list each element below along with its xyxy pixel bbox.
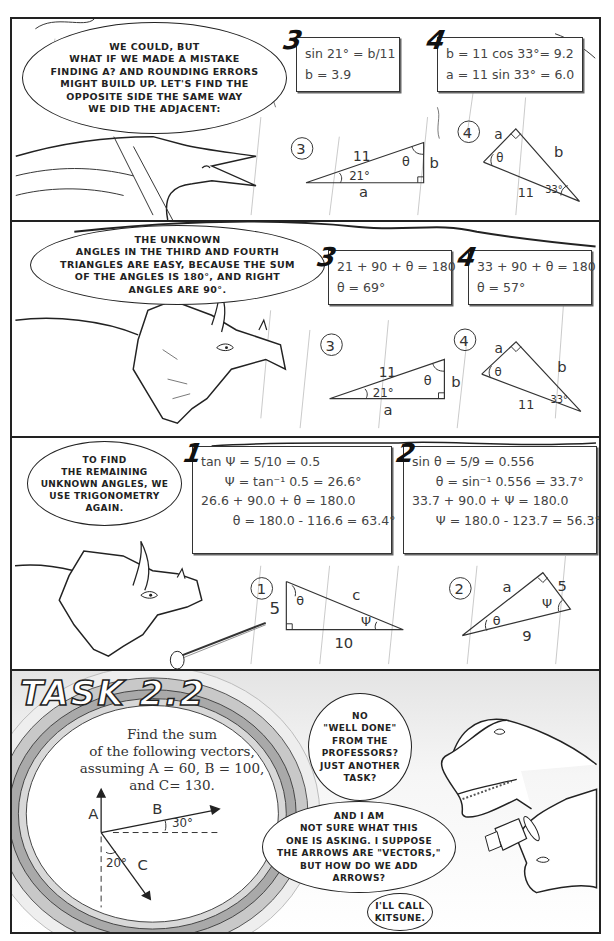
calc-line: θ = 69°: [337, 280, 385, 295]
side-a: a: [494, 340, 502, 356]
speech-bubble-trex: No "well done" from the professors? Just…: [308, 693, 412, 801]
vector-c-label: C: [138, 856, 148, 873]
calc-line: θ = 180.0 - 116.6 = 63.4°: [201, 513, 395, 528]
side-hyp: 11: [518, 397, 534, 412]
vector-b-label: B: [152, 800, 162, 817]
angle-33: 33°: [545, 184, 562, 195]
side-c: c: [352, 586, 360, 603]
calc-line: tan Ψ = 5/10 = 0.5: [201, 454, 320, 469]
calc-line: 21 + 90 + θ = 180: [337, 259, 456, 274]
angle-30-label: 30°: [172, 816, 193, 830]
task-title: TASK 2.2: [20, 673, 206, 713]
panel-3: 1 5 θ c Ψ 10 2 a 5 Ψ θ 9 To find the rem…: [10, 436, 601, 671]
angle-theta: θ: [494, 365, 501, 379]
triangle-3-label: 3: [326, 337, 335, 354]
side-10: 10: [334, 634, 353, 651]
side-5: 5: [558, 577, 567, 594]
side-hyp: 11: [379, 364, 396, 380]
calc-line: b = 11 cos 33°= 9.2: [446, 46, 574, 61]
side-9: 9: [522, 627, 531, 644]
side-b: b: [430, 154, 439, 171]
angle-33: 33°: [550, 394, 567, 405]
panel-4: A B 30° C 20° TASK 2.2 Find the sum of t…: [10, 669, 601, 934]
calc-line: Ψ = 180.0 - 123.7 = 56.3°: [412, 513, 601, 528]
side-hyp: 11: [353, 148, 370, 164]
panel-2: 3 11 21° θ b a 4 a θ b 33° 11 The unknow…: [10, 220, 601, 438]
triangle-1-label: 1: [257, 580, 266, 597]
calc-line: sin 21° = b/11: [305, 46, 396, 61]
angle-theta: θ: [402, 154, 410, 169]
calc-line: a = 11 sin 33° = 6.0: [446, 67, 574, 82]
angle-psi: Ψ: [361, 614, 371, 629]
triangle-4-label: 4: [459, 332, 468, 349]
calc-box-2: sin θ = 5/9 = 0.556 θ = sin⁻¹ 0.556 = 33…: [403, 446, 597, 554]
triangle-3-label: 3: [296, 140, 305, 157]
angle-20-label: 20°: [106, 856, 127, 870]
side-b: b: [554, 143, 563, 160]
calc-box-4: b = 11 cos 33°= 9.2 a = 11 sin 33° = 6.0: [437, 37, 583, 92]
calc-line: 26.6 + 90.0 + θ = 180.0: [201, 493, 355, 508]
side-a: a: [503, 578, 512, 595]
side-a: a: [384, 401, 393, 418]
angle-theta: θ: [296, 593, 304, 608]
speech-bubble: The unknown angles in the third and four…: [30, 225, 325, 305]
calc-line: b = 3.9: [305, 67, 351, 82]
angle-theta: θ: [496, 151, 503, 165]
calc-box-4: 33 + 90 + θ = 180 θ = 57°: [468, 250, 592, 305]
calc-line: 33.7 + 90.0 + Ψ = 180.0: [412, 493, 569, 508]
calc-box-3: sin 21° = b/11 b = 3.9: [296, 37, 400, 92]
calc-box-3: 21 + 90 + θ = 180 θ = 69°: [328, 250, 452, 305]
speech-bubble: To find the remaining unknown angles, we…: [27, 441, 182, 526]
angle-theta: θ: [493, 613, 501, 628]
side-5: 5: [270, 598, 281, 618]
task-description: Find the sum of the following vectors, a…: [77, 726, 267, 794]
speech-bubble-triceratops: And I am not sure what this one is askin…: [262, 801, 456, 893]
side-b: b: [557, 358, 566, 375]
calc-line: sin θ = 5/9 = 0.556: [412, 454, 534, 469]
side-b: b: [451, 373, 460, 390]
angle-psi: Ψ: [542, 596, 552, 611]
calc-line: θ = sin⁻¹ 0.556 = 33.7°: [412, 474, 584, 489]
speech-bubble: We could, but what if we made a mistake …: [22, 22, 287, 134]
calc-line: 33 + 90 + θ = 180: [477, 259, 596, 274]
angle-21: 21°: [373, 386, 394, 400]
speech-bubble-call: I'll call Kitsune.: [367, 893, 433, 931]
calc-box-1: tan Ψ = 5/10 = 0.5 Ψ = tan⁻¹ 0.5 = 26.6°…: [192, 446, 392, 554]
side-a: a: [359, 183, 368, 200]
calc-line: Ψ = tan⁻¹ 0.5 = 26.6°: [201, 474, 362, 489]
panel-1: 3 11 21° θ b a 4 a θ b 33° 11 We could, …: [10, 17, 601, 222]
calc-line: θ = 57°: [477, 280, 525, 295]
side-hyp: 11: [518, 185, 534, 200]
vector-a-label: A: [88, 805, 98, 822]
triangle-4-label: 4: [463, 124, 472, 141]
angle-theta: θ: [424, 373, 432, 388]
triangle-2-label: 2: [454, 580, 463, 597]
side-a: a: [494, 126, 502, 142]
angle-21: 21°: [349, 169, 370, 183]
